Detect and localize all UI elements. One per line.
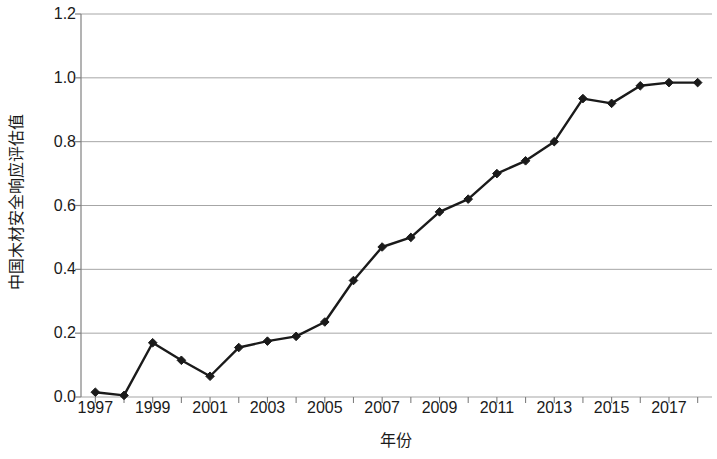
x-axis-tick-label: 2013	[536, 399, 572, 417]
x-axis-tick-label: 2003	[250, 399, 286, 417]
data-point-marker	[665, 78, 674, 87]
x-axis-tick-label: 1999	[135, 399, 171, 417]
data-point-marker	[263, 337, 272, 346]
x-axis-tick-labels: 1997199920012003200520072009201120132015…	[0, 399, 717, 427]
x-axis-tick-label: 2009	[422, 399, 458, 417]
chart-container: 中国木材安全响应评估值 0.00.20.40.60.81.01.2 199719…	[0, 0, 717, 459]
x-axis-title: 年份	[80, 427, 712, 451]
x-axis-tick-label: 2007	[364, 399, 400, 417]
data-point-marker	[91, 388, 100, 397]
data-series-line	[95, 83, 697, 396]
x-axis-tick-label: 2015	[594, 399, 630, 417]
x-axis-tick-label: 1997	[78, 399, 114, 417]
data-point-marker	[693, 78, 702, 87]
x-axis-tick-label: 2017	[651, 399, 687, 417]
x-axis-tick-label: 2001	[192, 399, 228, 417]
plot-area	[0, 0, 717, 459]
x-axis-tick-label: 2011	[480, 399, 514, 417]
x-axis-tick-label: 2005	[307, 399, 343, 417]
